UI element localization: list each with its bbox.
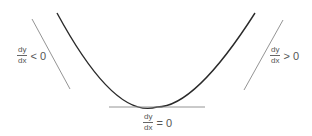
- relation-text: > 0: [283, 50, 299, 62]
- derivative-fraction: dy dx: [143, 113, 153, 132]
- relation-text: < 0: [30, 50, 46, 62]
- label-negative-slope: dy dx < 0: [17, 46, 46, 65]
- label-zero-slope: dy dx = 0: [143, 113, 172, 132]
- relation-text: = 0: [156, 117, 172, 129]
- label-positive-slope: dy dx > 0: [270, 46, 299, 65]
- derivative-fraction: dy dx: [17, 46, 27, 65]
- derivative-fraction: dy dx: [270, 46, 280, 65]
- parabola-curve: [57, 13, 255, 108]
